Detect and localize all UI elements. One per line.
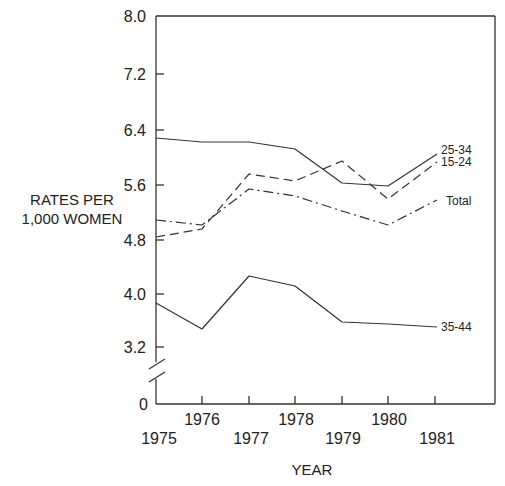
line-chart: 8.0 7.2 6.4 5.6 4.8 4.0 3.2 0 1975 1976 …: [0, 0, 505, 486]
y-tick-label: 7.2: [124, 66, 146, 83]
series-35-44-line: [156, 276, 437, 329]
series-label-total: Total: [446, 194, 471, 208]
cut-off-caption: [12, 474, 242, 480]
series-label-15-24: 15-24: [441, 155, 472, 169]
y-tick-label: 3.2: [124, 339, 146, 356]
series-label-35-44: 35-44: [441, 320, 472, 334]
plot-frame: [156, 16, 495, 404]
series-15-24-line: [156, 161, 437, 237]
x-axis-title: YEAR: [292, 461, 333, 478]
x-tick-label: 1980: [371, 411, 407, 428]
series-25-34-line: [156, 138, 437, 186]
y-tick-label: 5.6: [124, 177, 146, 194]
y-tick-label: 4.0: [124, 286, 146, 303]
x-tick-label: 1981: [419, 430, 455, 447]
y-axis-title-line1: RATES PER: [30, 191, 114, 208]
x-tick-label: 1979: [325, 430, 361, 447]
x-tick-label: 1977: [233, 430, 269, 447]
y-tick-label: 6.4: [124, 122, 146, 139]
x-tick-label: 1975: [141, 430, 177, 447]
x-axis-labels: 1975 1976 1977 1978 1979 1980 1981: [141, 411, 455, 447]
y-tick-label: 0: [139, 396, 148, 413]
x-axis-ticks: [202, 396, 435, 404]
x-tick-label: 1978: [278, 411, 314, 428]
y-axis-ticks: [156, 74, 164, 347]
y-tick-label: 8.0: [124, 8, 146, 25]
y-tick-label: 4.8: [124, 232, 146, 249]
axis-break-icon: [149, 359, 165, 382]
y-axis-title-line2: 1,000 WOMEN: [22, 210, 123, 227]
y-axis-labels: 8.0 7.2 6.4 5.6 4.8 4.0 3.2 0: [124, 8, 148, 413]
x-tick-label: 1976: [184, 411, 220, 428]
